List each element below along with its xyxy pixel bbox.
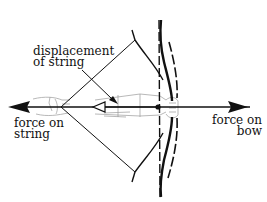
label-force-bow-line2: bow	[212, 126, 262, 137]
bow-outer-edge-lower	[168, 118, 177, 178]
bow-upper-limb	[160, 20, 172, 101]
force-on-bow-arrowhead-icon	[228, 101, 248, 113]
label-force-string-line2: string	[14, 129, 64, 140]
label-displacement-line2: of string	[33, 57, 114, 68]
label-displacement-of-string: displacement of string	[33, 46, 114, 68]
arrow-rest-dot	[155, 104, 160, 109]
string-upper-tip	[132, 30, 135, 40]
displacement-arrowhead-icon	[93, 102, 105, 112]
bow-tip-curve-lower	[135, 133, 163, 172]
force-on-string-arrowhead-icon	[8, 101, 30, 113]
label-force-on-bow: force on bow	[212, 115, 262, 137]
label-force-on-string: force on string	[14, 118, 64, 140]
diagram-canvas	[0, 0, 267, 202]
string-lower-tip	[132, 172, 135, 182]
bow-lower-limb	[161, 117, 172, 197]
